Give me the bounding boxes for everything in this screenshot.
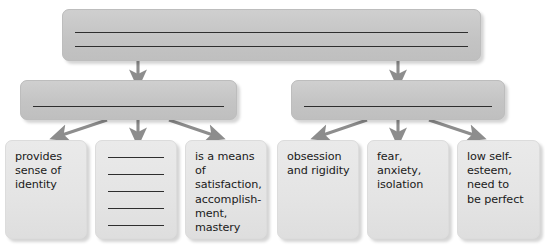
node-bottom-5[interactable]: fear, anxiety, isolation [367, 140, 449, 239]
blank-line[interactable] [33, 106, 224, 107]
node-bottom-3[interactable]: is a means of satisfaction, accomplish- … [185, 140, 267, 239]
blank-line[interactable] [75, 32, 468, 33]
blank-line[interactable] [75, 46, 468, 47]
node-bottom-2[interactable] [95, 140, 177, 239]
node-bottom-6-label: low self- esteem, need to be perfect [467, 150, 534, 207]
node-bottom-1-label: provides sense of identity [15, 150, 81, 193]
node-bottom-3-label: is a means of satisfaction, accomplish- … [195, 150, 261, 235]
connector-middle-left-to-bottom-1 [59, 120, 107, 136]
blank-line[interactable] [108, 191, 164, 192]
blank-line[interactable] [108, 208, 164, 209]
node-middle-left-blank-lines[interactable] [33, 106, 224, 107]
node-top-blank-lines[interactable] [75, 32, 468, 47]
connector-middle-left-to-bottom-3 [169, 120, 216, 136]
node-bottom-5-label: fear, anxiety, isolation [377, 150, 443, 193]
blank-line[interactable] [108, 174, 164, 175]
node-bottom-4[interactable]: obsession and rigidity [277, 140, 359, 239]
node-bottom-6[interactable]: low self- esteem, need to be perfect [457, 140, 540, 239]
connector-middle-right-to-bottom-4 [320, 120, 367, 136]
blank-line[interactable] [304, 106, 492, 107]
node-middle-right-blank-lines[interactable] [304, 106, 492, 107]
node-middle-right[interactable] [291, 80, 505, 120]
node-middle-left[interactable] [20, 80, 237, 120]
blank-line[interactable] [108, 225, 164, 226]
diagram-canvas: provides sense of identity is a means of… [0, 0, 545, 246]
blank-line[interactable] [108, 157, 164, 158]
node-bottom-2-blank-lines[interactable] [108, 157, 164, 226]
node-bottom-1[interactable]: provides sense of identity [5, 140, 87, 239]
connector-middle-right-to-bottom-6 [429, 120, 477, 136]
node-bottom-4-label: obsession and rigidity [287, 150, 353, 178]
node-top[interactable] [62, 9, 481, 61]
